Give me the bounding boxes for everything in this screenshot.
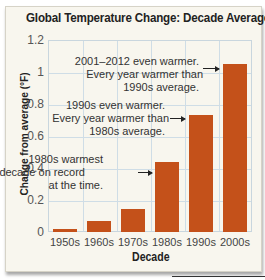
- chart-title: Global Temperature Change: Decade Averag…: [26, 10, 265, 25]
- annotation-line: 1980s warmest: [0, 153, 103, 166]
- gridline: [49, 201, 251, 202]
- x-tick: 2000s: [218, 236, 252, 248]
- arrow-icon: [203, 68, 219, 69]
- annotation-line: at the time.: [0, 179, 103, 192]
- x-tick: 1980s: [150, 236, 184, 248]
- x-tick: 1970s: [116, 236, 150, 248]
- annotation-line: decade on record: [0, 166, 85, 179]
- arrow-icon: [138, 172, 152, 173]
- annotation-line: 1980s average.: [52, 125, 165, 138]
- annotation-line: Every year warmer than: [52, 112, 169, 125]
- bar-1990s: [189, 115, 213, 232]
- annotation-line: 2001–2012 even warmer.: [75, 55, 199, 68]
- x-tick: 1990s: [184, 236, 218, 248]
- bar-1970s: [121, 209, 145, 232]
- annotation-line: 1990s average.: [75, 81, 199, 94]
- x-axis-label: Decade: [132, 250, 170, 264]
- y-tick: 0: [8, 225, 44, 239]
- bar-1960s: [87, 221, 111, 232]
- annotation-2000s: 2001–2012 even warmer. Every year warmer…: [75, 55, 199, 94]
- annotation-1980s: 1980s warmest decade on record at the ti…: [0, 153, 103, 192]
- bar-2000s: [223, 64, 247, 232]
- bar-1950s: [53, 229, 77, 232]
- x-tick: 1960s: [82, 236, 116, 248]
- bar-1980s: [155, 162, 179, 232]
- annotation-line: 1990s even warmer.: [52, 99, 165, 112]
- y-tick: 1.2: [8, 33, 44, 47]
- annotation-1990s: 1990s even warmer. Every year warmer tha…: [52, 99, 165, 138]
- x-tick: 1950s: [48, 236, 82, 248]
- divider: [172, 276, 265, 280]
- annotation-line: Every year warmer than: [75, 68, 203, 81]
- arrow-icon: [170, 118, 185, 119]
